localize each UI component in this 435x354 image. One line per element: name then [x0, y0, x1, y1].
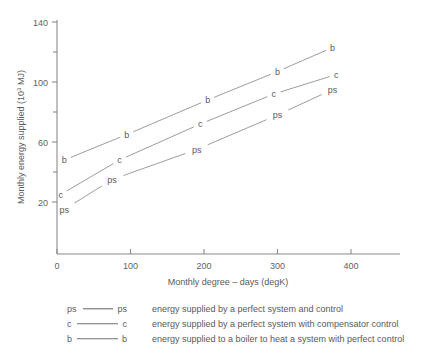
series-c: ccccc [58, 70, 339, 200]
legend-marker-left-b: b [67, 334, 72, 344]
x-tick-label-100: 100 [123, 261, 138, 271]
series-ps-segment [75, 186, 102, 203]
y-axis-title: Monthly energy supplied (103 MJ) [16, 70, 26, 204]
series-b-segment [133, 103, 201, 132]
series-b-point-label: b [330, 43, 335, 53]
series-b-point-label: b [124, 130, 129, 140]
y-axis-ticks [52, 22, 57, 202]
chart-figure: 2060100140 0100200300400 Monthly degree … [0, 0, 435, 354]
y-axis-title-prefix: Monthly energy supplied (10 [16, 91, 26, 204]
series-b-segment [214, 74, 271, 97]
chart-legend: pspsenergy supplied by a perfect system … [67, 304, 404, 344]
y-tick-label-100: 100 [33, 78, 48, 88]
series-b-point-label: b [275, 67, 280, 77]
series-ps-segment [288, 95, 321, 110]
series-c-segment [207, 97, 268, 122]
series-c-point-label: c [198, 119, 203, 129]
series-c-point-label: c [272, 89, 277, 99]
series-ps-segment [123, 154, 185, 176]
series-ps-point-label: ps [273, 110, 283, 120]
legend-marker-left-ps: ps [67, 304, 77, 314]
chart-series-group: pspspspspscccccbbbbb [58, 43, 339, 215]
series-c-point-label: c [334, 70, 339, 80]
legend-marker-left-c: c [67, 319, 72, 329]
series-c-segment [281, 77, 330, 92]
legend-description-b: energy supplied to a boiler to heat a sy… [152, 334, 404, 344]
y-tick-label-20: 20 [38, 198, 48, 208]
x-tick-label-400: 400 [343, 261, 358, 271]
x-axis-title: Monthly degree – days (degK) [168, 277, 289, 287]
series-c-point-label: c [117, 155, 122, 165]
series-ps-point-label: ps [60, 205, 70, 215]
line-chart: 2060100140 0100200300400 Monthly degree … [0, 0, 435, 354]
series-ps-segment [208, 120, 267, 145]
series-ps-point-label: ps [192, 145, 202, 155]
y-axis-tick-labels: 2060100140 [33, 18, 48, 208]
legend-marker-right-b: b [122, 334, 127, 344]
series-b-point-label: b [62, 155, 67, 165]
y-tick-label-140: 140 [33, 18, 48, 28]
x-axis-ticks [57, 249, 351, 254]
series-c-point-label: c [58, 190, 63, 200]
series-c-segment [126, 127, 194, 157]
series-ps-point-label: ps [328, 85, 338, 95]
x-axis-tick-labels: 0100200300400 [54, 261, 358, 271]
legend-description-ps: energy supplied by a perfect system and … [152, 304, 343, 314]
y-tick-label-60: 60 [38, 138, 48, 148]
series-b-point-label: b [205, 95, 210, 105]
legend-description-c: energy supplied by a perfect system with… [152, 319, 399, 329]
x-tick-label-0: 0 [54, 261, 59, 271]
y-axis-title-suffix: MJ) [16, 70, 26, 88]
x-tick-label-300: 300 [270, 261, 285, 271]
legend-marker-right-ps: ps [117, 304, 127, 314]
series-b-segment [71, 137, 121, 157]
series-b-segment [284, 50, 326, 68]
x-tick-label-200: 200 [196, 261, 211, 271]
legend-marker-right-c: c [123, 319, 128, 329]
series-ps-point-label: ps [107, 175, 117, 185]
